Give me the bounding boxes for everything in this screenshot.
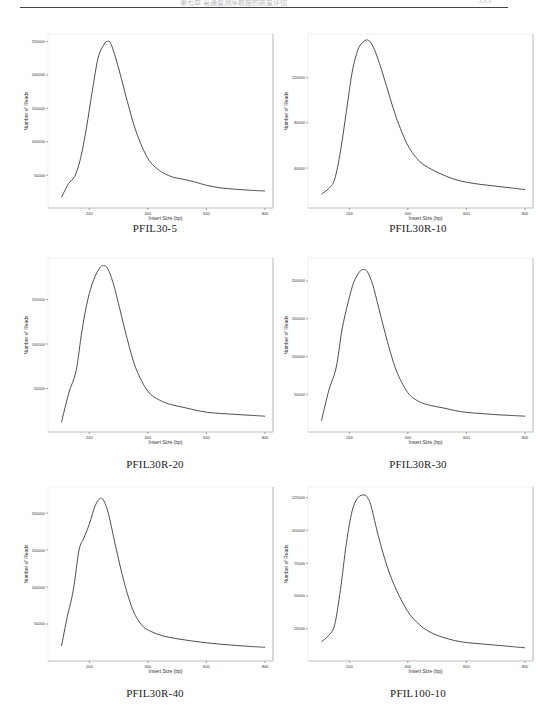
y-axis-title: Number of Reads xyxy=(283,91,289,131)
y-tick-label: 150000 xyxy=(32,548,46,553)
y-tick-label: 150000 xyxy=(32,297,46,302)
y-axis-title: Number of Reads xyxy=(283,315,289,355)
chart-caption-5: PFIL30R-40 xyxy=(20,687,290,699)
insert-size-curve xyxy=(61,498,265,647)
x-tick-label: 600 xyxy=(203,211,210,216)
x-tick-label: 800 xyxy=(262,435,269,440)
insert-size-curve xyxy=(321,270,525,421)
plot-frame xyxy=(308,258,533,432)
y-tick-label: 25000 xyxy=(294,626,306,631)
chart-panel-3: 50000100000150000200400600800Insert Size… xyxy=(18,252,288,477)
insert-size-curve xyxy=(61,266,265,423)
y-tick-label: 250000 xyxy=(32,39,46,44)
y-axis-title: Number of Reads xyxy=(23,91,29,131)
y-tick-label: 125000 xyxy=(292,495,306,500)
page-number: 333 xyxy=(478,0,491,5)
line-chart-6: 250005000075000100000125000200400600800I… xyxy=(278,481,548,681)
y-tick-label: 150000 xyxy=(32,106,46,111)
x-axis-title: Insert Size (bp) xyxy=(149,439,183,445)
chart-caption-3: PFIL30R-20 xyxy=(20,458,290,470)
insert-size-curve xyxy=(321,495,525,648)
x-tick-label: 800 xyxy=(262,211,269,216)
x-tick-label: 600 xyxy=(463,435,470,440)
x-tick-label: 600 xyxy=(203,664,210,669)
x-axis-title: Insert Size (bp) xyxy=(409,215,443,221)
y-tick-label: 100000 xyxy=(292,354,306,359)
x-tick-label: 200 xyxy=(86,435,93,440)
chart-panel-6: 250005000075000100000125000200400600800I… xyxy=(278,481,548,706)
y-tick-label: 200000 xyxy=(292,278,306,283)
chart-caption-6: PFIL100-10 xyxy=(283,687,553,699)
x-tick-label: 800 xyxy=(522,211,529,216)
y-axis-title: Number of Reads xyxy=(23,544,29,584)
y-tick-label: 50000 xyxy=(294,392,306,397)
y-tick-label: 100000 xyxy=(32,139,46,144)
x-axis-title: Insert Size (bp) xyxy=(409,439,443,445)
y-tick-label: 100000 xyxy=(32,342,46,347)
x-tick-label: 200 xyxy=(346,435,353,440)
y-tick-label: 75000 xyxy=(294,561,306,566)
chart-panel-1: 5000010000015000020000025000020040060080… xyxy=(18,28,288,253)
plot-frame xyxy=(308,487,533,661)
y-tick-label: 150000 xyxy=(292,316,306,321)
insert-size-curve xyxy=(61,41,265,197)
y-axis-title: Number of Reads xyxy=(283,544,289,584)
y-tick-label: 100000 xyxy=(292,528,306,533)
chart-caption-2: PFIL30R-10 xyxy=(283,222,553,234)
x-tick-label: 800 xyxy=(522,435,529,440)
y-tick-label: 200000 xyxy=(32,72,46,77)
x-tick-label: 800 xyxy=(522,664,529,669)
x-tick-label: 800 xyxy=(262,664,269,669)
line-chart-2: 4000080000120000200400600800Insert Size … xyxy=(278,28,548,228)
line-chart-5: 50000100000150000200000200400600800Inser… xyxy=(18,481,288,681)
header-rule xyxy=(20,7,508,8)
line-chart-1: 5000010000015000020000025000020040060080… xyxy=(18,28,288,228)
x-axis-title: Insert Size (bp) xyxy=(149,215,183,221)
y-tick-label: 100000 xyxy=(32,585,46,590)
x-tick-label: 600 xyxy=(463,664,470,669)
line-chart-4: 50000100000150000200000200400600800Inser… xyxy=(278,252,548,452)
plot-frame xyxy=(48,34,273,208)
chart-panel-5: 50000100000150000200000200400600800Inser… xyxy=(18,481,288,706)
chart-caption-1: PFIL30-5 xyxy=(20,222,290,234)
x-tick-label: 200 xyxy=(346,211,353,216)
y-tick-label: 120000 xyxy=(292,75,306,80)
running-header: 第七章 高通量测序数据的质量评估 xyxy=(180,0,287,7)
x-tick-label: 200 xyxy=(86,664,93,669)
y-tick-label: 50000 xyxy=(34,621,46,626)
x-axis-title: Insert Size (bp) xyxy=(149,668,183,674)
y-tick-label: 200000 xyxy=(32,511,46,516)
x-tick-label: 200 xyxy=(86,211,93,216)
insert-size-curve xyxy=(321,40,525,194)
x-tick-label: 200 xyxy=(346,664,353,669)
y-tick-label: 50000 xyxy=(34,173,46,178)
x-tick-label: 600 xyxy=(463,211,470,216)
chart-panel-2: 4000080000120000200400600800Insert Size … xyxy=(278,28,548,253)
plot-frame xyxy=(48,258,273,432)
x-tick-label: 600 xyxy=(203,435,210,440)
chart-caption-4: PFIL30R-30 xyxy=(283,458,553,470)
plot-frame xyxy=(308,34,533,208)
y-axis-title: Number of Reads xyxy=(23,315,29,355)
x-axis-title: Insert Size (bp) xyxy=(409,668,443,674)
y-tick-label: 80000 xyxy=(294,120,306,125)
y-tick-label: 50000 xyxy=(294,593,306,598)
y-tick-label: 40000 xyxy=(294,166,306,171)
line-chart-3: 50000100000150000200400600800Insert Size… xyxy=(18,252,288,452)
y-tick-label: 50000 xyxy=(34,386,46,391)
chart-panel-4: 50000100000150000200000200400600800Inser… xyxy=(278,252,548,477)
